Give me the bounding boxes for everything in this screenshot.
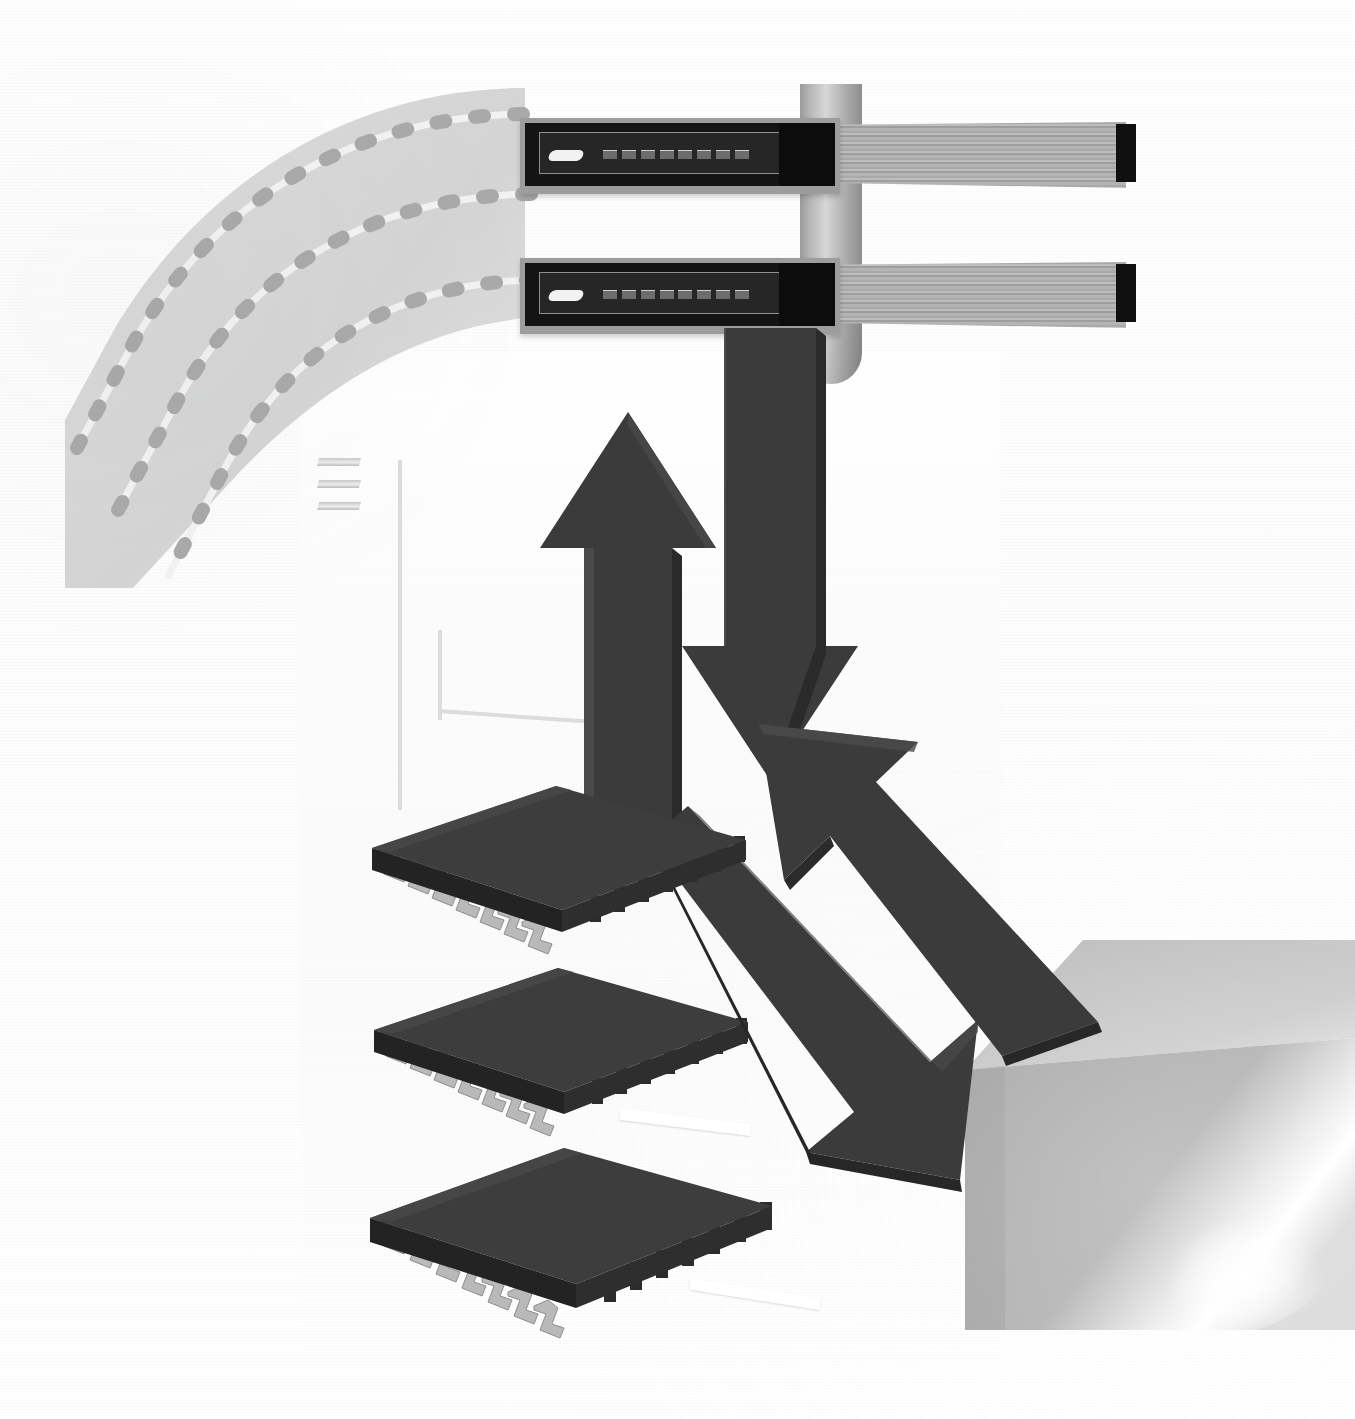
up-arrow xyxy=(540,412,730,832)
connector-pin xyxy=(660,290,674,299)
edge-connector-upper xyxy=(520,118,840,194)
connector-pin xyxy=(678,290,692,299)
ribbon-cable-lower-end-cap xyxy=(1116,264,1136,322)
edge-connector-lower-body xyxy=(525,263,835,326)
connector-pin xyxy=(622,290,636,299)
connector-pin xyxy=(697,150,711,159)
ribbon-cable-upper-end-cap xyxy=(1116,124,1136,182)
edge-connector-upper-latch xyxy=(779,123,835,186)
connector-pin xyxy=(716,150,730,159)
connector-pin xyxy=(622,150,636,159)
connector-pin xyxy=(716,290,730,299)
connector-pin xyxy=(603,150,617,159)
integrated-circuit-top xyxy=(358,786,758,946)
ribbon-cable-upper xyxy=(820,122,1126,188)
edge-connector-lower-keying-notch xyxy=(547,290,585,301)
board-outline-inner-edge xyxy=(438,630,442,720)
edge-connector-upper-pin-row xyxy=(603,150,749,160)
connector-pin xyxy=(603,290,617,299)
connector-pin xyxy=(735,290,749,299)
connector-pin xyxy=(697,290,711,299)
edge-connector-upper-body xyxy=(525,123,835,186)
flex-circuit-band xyxy=(55,68,535,608)
edge-connector-lower xyxy=(520,258,840,334)
connector-pin xyxy=(641,290,655,299)
connector-pin xyxy=(678,150,692,159)
connector-pin xyxy=(641,150,655,159)
ribbon-cable-lower xyxy=(820,262,1126,328)
edge-connector-upper-keying-notch xyxy=(547,150,585,161)
connector-pin xyxy=(735,150,749,159)
illustration-canvas xyxy=(0,0,1355,1419)
connector-pin xyxy=(660,150,674,159)
ribbon-cable-assembly-upper xyxy=(520,118,1140,200)
edge-connector-lower-latch xyxy=(779,263,835,326)
edge-connector-lower-pin-row xyxy=(603,290,749,300)
